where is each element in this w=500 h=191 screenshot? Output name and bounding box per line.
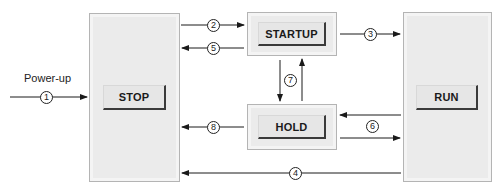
stop-button[interactable]: STOP bbox=[103, 85, 166, 110]
power-up-label: Power-up bbox=[24, 72, 71, 84]
run-button[interactable]: RUN bbox=[416, 85, 478, 110]
transition-number-1: 1 bbox=[40, 91, 53, 104]
hold-button[interactable]: HOLD bbox=[258, 115, 326, 139]
transition-number-4: 4 bbox=[289, 167, 302, 180]
transition-number-5: 5 bbox=[207, 42, 220, 55]
transition-number-7: 7 bbox=[284, 74, 297, 87]
transition-number-8: 8 bbox=[207, 121, 220, 134]
transition-number-6: 6 bbox=[366, 120, 379, 133]
startup-button[interactable]: STARTUP bbox=[258, 22, 326, 46]
transition-number-2: 2 bbox=[207, 19, 220, 32]
transition-number-3: 3 bbox=[364, 28, 377, 41]
